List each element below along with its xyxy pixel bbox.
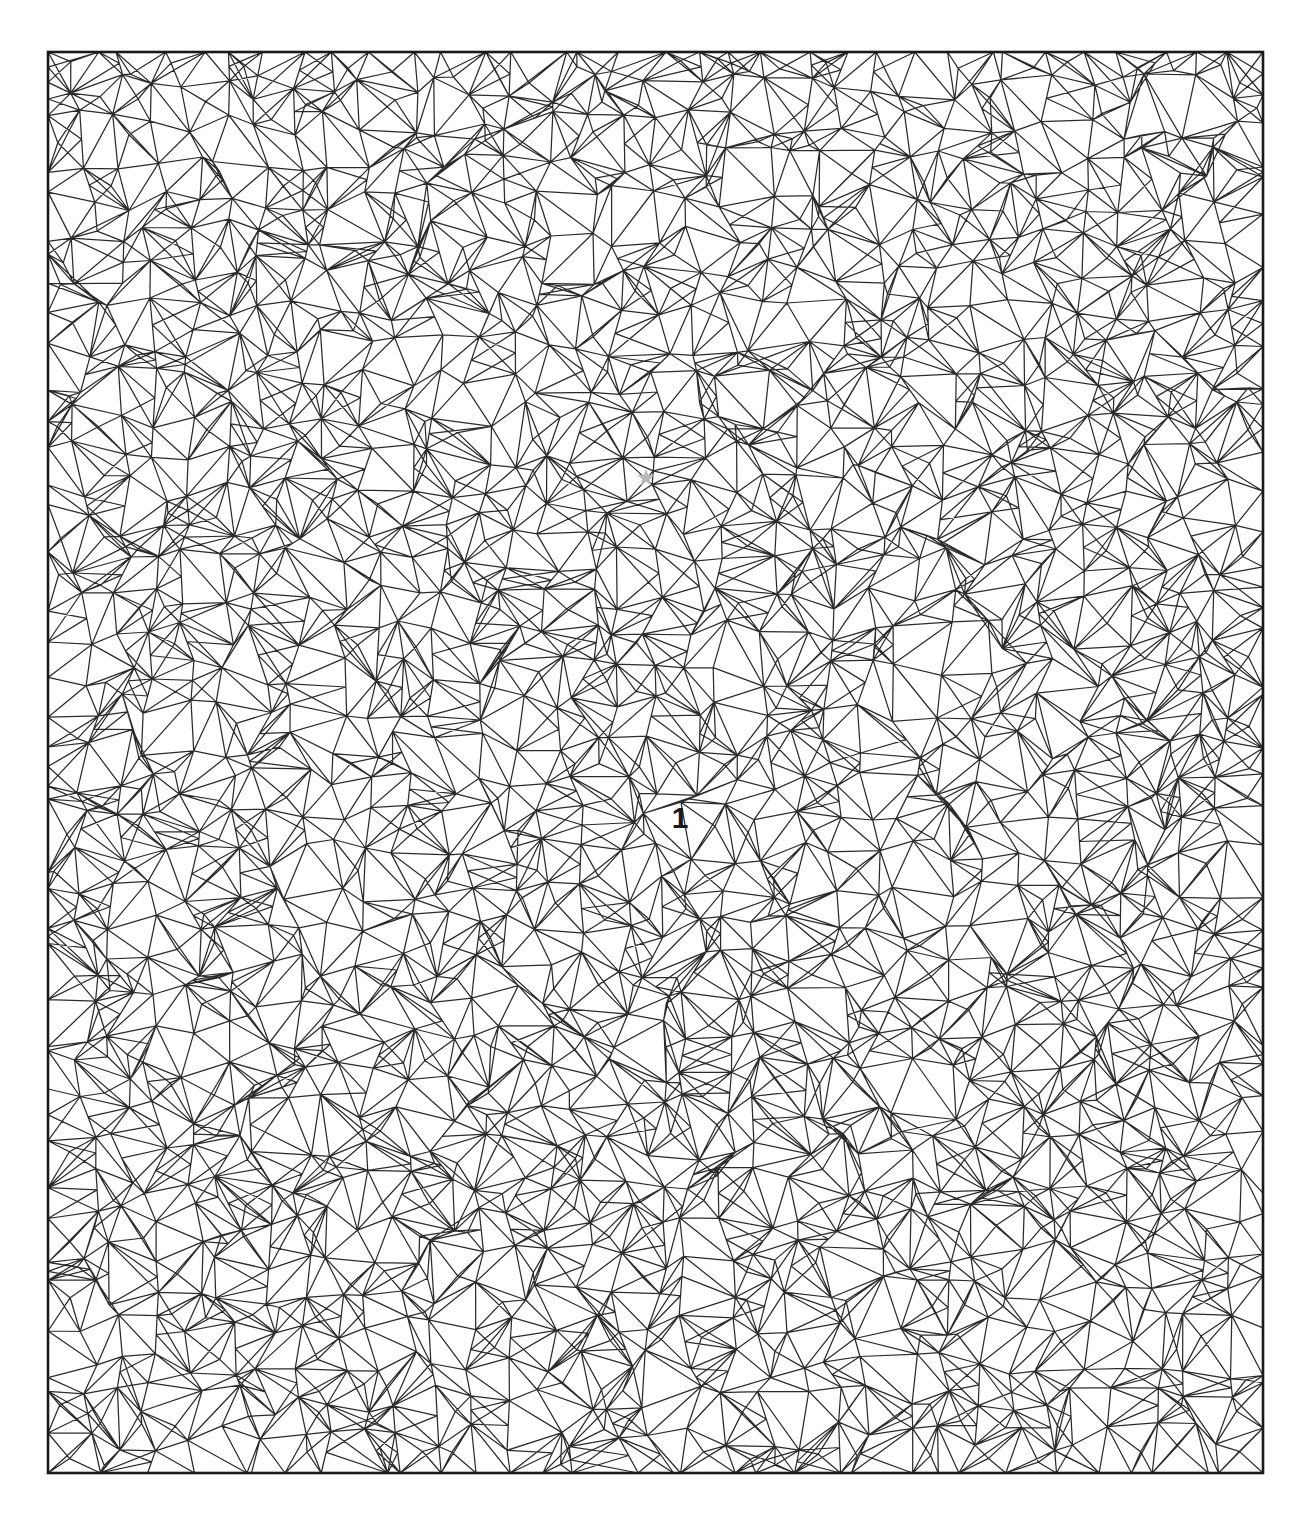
mesh-diagram: 1 [0, 0, 1310, 1520]
figure-root: 1 [0, 0, 1310, 1520]
figure-background [0, 0, 1310, 1520]
node-label-1: 1 [672, 801, 689, 834]
annotation-layer: 1 [672, 801, 689, 834]
